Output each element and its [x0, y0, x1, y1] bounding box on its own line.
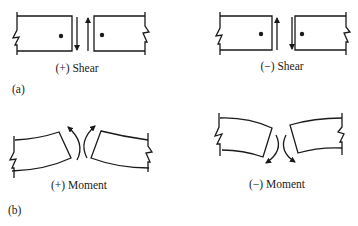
- right-beam-segment: [94, 12, 149, 55]
- part-b-tag: (b): [8, 204, 22, 217]
- right-beam-segment: [290, 113, 344, 155]
- centroid-dot: [259, 32, 263, 36]
- positive-shear-label: (+) Shear: [55, 62, 98, 75]
- left-beam-segment: [10, 132, 71, 178]
- left-beam-segment: [216, 12, 272, 55]
- negative-moment-label: (−) Moment: [249, 178, 306, 191]
- right-beam-segment: [295, 12, 350, 55]
- centroid-dot: [100, 33, 104, 37]
- right-beam-segment: [91, 131, 152, 172]
- negative-shear-label: (−) Shear: [260, 60, 303, 73]
- left-beam-segment: [215, 113, 272, 157]
- positive-moment-figure: [10, 126, 152, 178]
- negative-shear-figure: [216, 12, 350, 55]
- negative-moment-figure: [215, 113, 344, 163]
- left-beam-segment: [13, 12, 72, 55]
- centroid-dot: [300, 32, 304, 36]
- sign-convention-diagram: (+) Shear (−) Shear (a): [0, 0, 358, 226]
- centroid-dot: [59, 34, 63, 38]
- positive-shear-figure: [13, 12, 149, 55]
- moment-arrow-counterclockwise: [283, 135, 295, 162]
- part-a-tag: (a): [12, 83, 25, 96]
- positive-moment-label: (+) Moment: [51, 179, 108, 192]
